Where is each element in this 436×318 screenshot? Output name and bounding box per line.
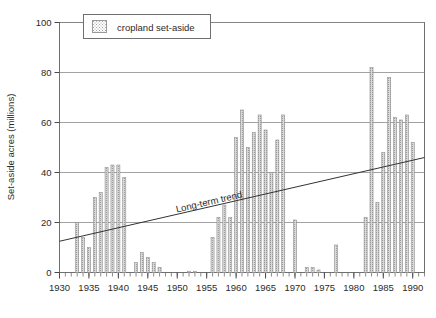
bar-1984 (376, 203, 379, 273)
y-axis-title: Set-aside acres (millions) (5, 94, 16, 201)
bar-1959 (229, 218, 232, 273)
bar-1977 (335, 245, 338, 273)
y-tick-label-60: 60 (41, 117, 52, 128)
x-tick-label-1990: 1990 (402, 282, 423, 293)
y-tick-label-80: 80 (41, 67, 52, 78)
bar-1986 (388, 78, 391, 273)
bar-1938 (105, 168, 108, 273)
bar-1953 (193, 271, 196, 272)
x-tick-label-1985: 1985 (373, 282, 394, 293)
x-tick-label-1970: 1970 (284, 282, 305, 293)
chart-container: 020406080100 193019351940194519501955196… (0, 0, 436, 318)
bar-1952 (187, 271, 190, 272)
bar-1936 (93, 198, 96, 273)
bar-1940 (117, 165, 120, 273)
bar-1964 (258, 115, 261, 273)
bar-1963 (252, 133, 255, 273)
x-tick-label-1935: 1935 (78, 282, 99, 293)
bar-1988 (399, 120, 402, 273)
x-tick-label-1955: 1955 (196, 282, 217, 293)
y-tick-label-40: 40 (41, 167, 52, 178)
bar-1941 (123, 178, 126, 273)
bar-1970 (293, 220, 296, 273)
x-tick-label-1975: 1975 (314, 282, 335, 293)
legend: cropland set-aside (84, 15, 211, 39)
bar-1958 (223, 205, 226, 273)
bar-1974 (317, 270, 320, 273)
bar-1968 (282, 115, 285, 273)
bar-1944 (140, 253, 143, 273)
bar-1987 (394, 118, 397, 273)
bar-1947 (158, 268, 161, 273)
bar-1933 (76, 223, 79, 273)
bar-1943 (135, 263, 138, 273)
y-tick-label-0: 0 (46, 267, 51, 278)
bar-1965 (264, 130, 267, 273)
x-tick-label-1960: 1960 (226, 282, 247, 293)
bar-1935 (87, 248, 90, 273)
x-tick-label-1930: 1930 (49, 282, 70, 293)
cropland-set-aside-bar-chart: 020406080100 193019351940194519501955196… (0, 0, 436, 318)
legend-label-cropland-set-aside: cropland set-aside (117, 22, 195, 33)
bar-1939 (111, 165, 114, 273)
bar-1966 (270, 173, 273, 273)
bar-1973 (311, 268, 314, 273)
bar-1934 (82, 238, 85, 273)
bar-1972 (305, 268, 308, 273)
x-tick-label-1945: 1945 (137, 282, 158, 293)
x-tick-label-1965: 1965 (255, 282, 276, 293)
bar-1956 (211, 238, 214, 273)
bar-1982 (364, 218, 367, 273)
bar-1946 (152, 263, 155, 273)
bar-1990 (411, 143, 414, 273)
y-tick-label-100: 100 (36, 17, 52, 28)
x-tick-label-1950: 1950 (167, 282, 188, 293)
bar-1945 (146, 258, 149, 273)
bar-1957 (217, 218, 220, 273)
bar-1967 (276, 140, 279, 273)
bar-1962 (246, 148, 249, 273)
bar-1960 (235, 138, 238, 273)
x-tick-label-1940: 1940 (108, 282, 129, 293)
legend-swatch-cropland-set-aside (93, 21, 107, 33)
x-tick-label-1980: 1980 (343, 282, 364, 293)
y-tick-label-20: 20 (41, 217, 52, 228)
bar-1985 (382, 153, 385, 273)
bar-1989 (405, 115, 408, 273)
